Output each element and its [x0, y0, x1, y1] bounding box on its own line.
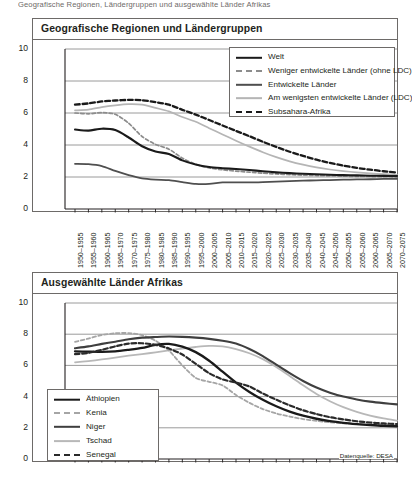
- legend-swatch: [236, 65, 262, 77]
- legend-label: Kenia: [86, 409, 107, 417]
- y-tick-label: 0: [6, 203, 28, 213]
- legend-countries: ÄthiopienKeniaNigerTschadSenegal: [47, 389, 159, 461]
- legend-swatch: [236, 79, 262, 91]
- x-tick-label: 2020–2025: [265, 232, 273, 268]
- legend-swatch: [54, 407, 80, 419]
- legend-item[interactable]: Senegal: [54, 448, 116, 461]
- x-tick-label: 1950–1955: [77, 232, 85, 268]
- legend-label: Welt: [268, 53, 284, 61]
- legend-swatch: [236, 52, 262, 64]
- x-tick-label: 1980–1985: [158, 232, 166, 268]
- legend-label: Tschad: [86, 437, 112, 445]
- y-tick-label: 4: [6, 391, 28, 401]
- legend-item[interactable]: Kenia: [54, 407, 107, 420]
- x-tick-label: 2050–2055: [345, 232, 353, 268]
- legend-swatch: [54, 394, 80, 406]
- chart-panel-regions: Geografische Regionen und Ländergruppen …: [32, 18, 398, 212]
- legend-swatch: [236, 92, 262, 104]
- x-tick-label: 2060–2065: [372, 232, 380, 268]
- y-tick-label: 4: [6, 139, 28, 149]
- legend-label: Senegal: [86, 451, 116, 459]
- x-tick-label: 2030–2035: [292, 232, 300, 268]
- x-tick-label: 1975–1980: [144, 232, 152, 268]
- x-tick-label: 2025–2030: [278, 232, 286, 268]
- x-axis-labels: 1950–19551955–19601960–19651965–19701970…: [32, 214, 398, 270]
- figure-caption: Geografische Regionen, Ländergruppen und…: [18, 0, 394, 12]
- legend-item[interactable]: Niger: [54, 421, 105, 434]
- x-tick-label: 2035–2040: [305, 232, 313, 268]
- x-tick-label: 1965–1970: [117, 232, 125, 268]
- x-tick-label: 2040–2045: [319, 232, 327, 268]
- legend-label: Subsahara-Afrika: [268, 108, 331, 116]
- x-tick-label: 2005–2010: [225, 232, 233, 268]
- y-tick-label: 10: [6, 43, 28, 53]
- legend-swatch: [54, 421, 80, 433]
- legend-item[interactable]: Äthiopien: [54, 393, 120, 406]
- y-tick-label: 6: [6, 107, 28, 117]
- y-tick-label: 2: [6, 171, 28, 181]
- legend-label: Am wenigsten entwickelte Länder (LDC): [268, 94, 412, 102]
- y-tick-label: 2: [6, 422, 28, 432]
- legend-swatch: [54, 449, 80, 461]
- x-tick-label: 2070–2075: [399, 232, 407, 268]
- y-tick-label: 8: [6, 328, 28, 338]
- legend-item[interactable]: Subsahara-Afrika: [236, 105, 331, 118]
- x-tick-label: 2045–2050: [332, 232, 340, 268]
- legend-label: Niger: [86, 423, 105, 431]
- x-tick-label: 2000–2005: [211, 232, 219, 268]
- y-tick-label: 6: [6, 359, 28, 369]
- series-line: [75, 129, 397, 176]
- x-tick-label: 2055–2060: [359, 232, 367, 268]
- legend-regions: WeltWeniger entwickelte Länder (ohne LDC…: [229, 47, 395, 117]
- legend-item[interactable]: Am wenigsten entwickelte Länder (LDC): [236, 92, 412, 105]
- x-tick-label: 2065–2070: [386, 232, 394, 268]
- x-tick-label: 1960–1965: [104, 232, 112, 268]
- legend-item[interactable]: Entwickelte Länder: [236, 78, 336, 91]
- x-tick-label: 1955–1960: [90, 232, 98, 268]
- legend-label: Weniger entwickelte Länder (ohne LDC): [268, 67, 412, 75]
- x-tick-label: 1990–1995: [184, 232, 192, 268]
- legend-label: Entwickelte Länder: [268, 81, 336, 89]
- x-tick-label: 1985–1990: [171, 232, 179, 268]
- x-tick-label: 1995–2000: [198, 232, 206, 268]
- legend-item[interactable]: Tschad: [54, 434, 112, 447]
- source-note: Datenquelle: DESA: [339, 452, 394, 459]
- legend-swatch: [236, 106, 262, 118]
- legend-item[interactable]: Welt: [236, 51, 284, 64]
- legend-swatch: [54, 435, 80, 447]
- y-tick-label: 0: [6, 453, 28, 463]
- legend-item[interactable]: Weniger entwickelte Länder (ohne LDC): [236, 65, 412, 78]
- y-tick-label: 8: [6, 75, 28, 85]
- chart-panel-countries: Ausgewählte Länder Afrikas ÄthiopienKeni…: [32, 272, 398, 462]
- x-tick-label: 1970–1975: [131, 232, 139, 268]
- y-tick-label: 10: [6, 297, 28, 307]
- x-tick-label: 2015–2020: [251, 232, 259, 268]
- legend-label: Äthiopien: [86, 395, 120, 403]
- x-tick-label: 2010–2015: [238, 232, 246, 268]
- figure-root: Geografische Regionen, Ländergruppen und…: [0, 0, 412, 478]
